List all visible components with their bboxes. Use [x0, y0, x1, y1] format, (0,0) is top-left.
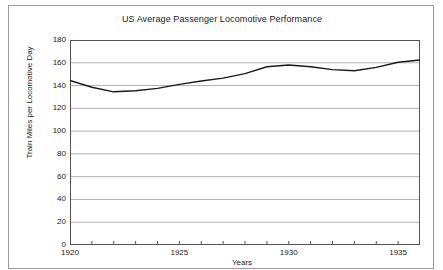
x-tick-label: 1925: [159, 249, 199, 257]
y-tick-label: 120: [53, 104, 66, 112]
x-tick-label: 1935: [378, 249, 418, 257]
y-tick-label: 40: [57, 195, 66, 203]
data-series-line: [70, 60, 420, 92]
y-axis-title: Train Miles per Locomotive Day: [25, 23, 34, 183]
y-tick-label: 160: [53, 59, 66, 67]
y-tick-label: 140: [53, 82, 66, 90]
x-tick-label: 1920: [50, 249, 90, 257]
chart-frame: US Average Passenger Locomotive Performa…: [8, 5, 434, 269]
y-tick-label: 180: [53, 36, 66, 44]
x-tick-label: 1930: [269, 249, 309, 257]
plot-area: [70, 40, 420, 245]
y-axis-tick-labels: 020406080100120140160180: [35, 40, 66, 245]
chart-title: US Average Passenger Locomotive Performa…: [9, 14, 435, 24]
y-tick-label: 80: [57, 150, 66, 158]
y-tick-label: 20: [57, 218, 66, 226]
x-axis-title: Years: [65, 258, 419, 267]
gridlines: [70, 40, 420, 222]
y-tick-label: 60: [57, 173, 66, 181]
plot-border: [71, 41, 420, 245]
y-tick-label: 100: [53, 127, 66, 135]
line-chart-svg: [70, 40, 420, 245]
